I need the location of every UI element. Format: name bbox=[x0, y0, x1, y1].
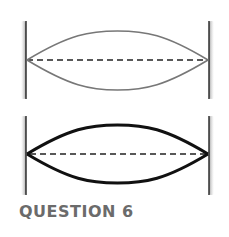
wave-trough-curve bbox=[27, 60, 208, 90]
left-wall-shading bbox=[21, 116, 26, 195]
question-caption: QUESTION 6 bbox=[19, 202, 134, 221]
right-wall-shading bbox=[209, 116, 214, 195]
wave-trough-curve bbox=[27, 154, 208, 183]
right-wall-shading bbox=[209, 21, 214, 99]
wave-diagram-fundamental-thin bbox=[21, 21, 214, 99]
wave-diagram-fundamental-thick bbox=[21, 116, 214, 195]
left-wall-shading bbox=[21, 21, 26, 99]
wave-crest-curve bbox=[27, 125, 208, 154]
wave-crest-curve bbox=[27, 31, 208, 60]
